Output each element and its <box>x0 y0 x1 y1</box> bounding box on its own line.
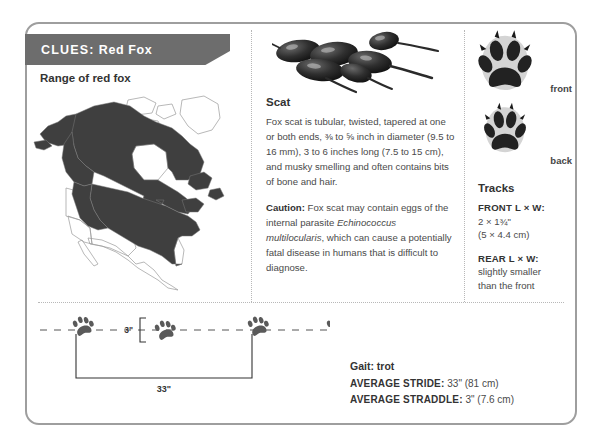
average-stride: AVERAGE STRIDE: 33" (81 cm) <box>350 378 565 389</box>
average-straddle-value: 3" (7.6 cm) <box>463 394 514 405</box>
back-paw-label: back <box>550 155 572 166</box>
stride-measure-label: 33" <box>157 384 171 394</box>
range-map <box>32 88 247 293</box>
tracks-heading: Tracks <box>478 182 570 194</box>
average-stride-value: 33" (81 cm) <box>445 378 499 389</box>
banner-title: CLUES: Red Fox <box>25 43 152 57</box>
scat-description: Fox scat is tubular, twisted, tapered at… <box>266 114 456 189</box>
trail-diagram-svg: 3" 33" <box>40 312 330 398</box>
track-front-measure: FRONT L × W: 2 × 1¾" (5 × 4.4 cm) <box>478 201 570 242</box>
track-rear-key: REAR L × W: <box>478 253 539 264</box>
straddle-measure-label: 3" <box>124 325 133 335</box>
track-front-metric: (5 × 4.4 cm) <box>478 229 529 240</box>
average-straddle-key: AVERAGE STRADDLE: <box>350 394 463 405</box>
paw-prints: front back <box>476 28 572 176</box>
caution-label: Caution: <box>266 202 305 213</box>
front-paw-icon <box>476 28 534 96</box>
trail-diagram: 3" 33" <box>40 312 330 398</box>
scat-illustration-svg <box>272 26 450 94</box>
map-title: Range of red fox <box>40 72 243 84</box>
scat-caution: Caution: Fox scat may contain eggs of th… <box>266 200 456 275</box>
back-paw-row: back <box>476 100 572 172</box>
back-paw-icon <box>481 100 529 158</box>
scat-heading: Scat <box>266 96 456 108</box>
north-america-map-svg <box>32 88 247 293</box>
average-stride-key: AVERAGE STRIDE: <box>350 378 445 389</box>
divider-vertical-left <box>251 30 252 302</box>
scat-illustration <box>272 26 450 94</box>
clues-banner: CLUES: Red Fox <box>25 34 230 65</box>
track-front-key: FRONT L × W: <box>478 202 545 213</box>
track-front-imperial: 2 × 1¾" <box>478 216 511 227</box>
track-rear-measure: REAR L × W: slightly smaller than the fr… <box>478 252 570 293</box>
tracks-section: Tracks FRONT L × W: 2 × 1¾" (5 × 4.4 cm)… <box>478 182 570 302</box>
front-paw-label: front <box>550 83 572 94</box>
gait-title: Gait: trot <box>350 360 565 372</box>
banner-subject: Red Fox <box>99 43 153 57</box>
gait-section: Gait: trot AVERAGE STRIDE: 33" (81 cm) A… <box>350 360 565 410</box>
divider-vertical-right <box>464 30 465 302</box>
track-rear-metric: than the front <box>478 280 535 291</box>
front-paw-row: front <box>476 28 572 100</box>
track-rear-imperial: slightly smaller <box>478 266 541 277</box>
scat-section: Scat Fox scat is tubular, twisted, taper… <box>266 96 456 286</box>
divider-horizontal <box>38 302 564 303</box>
average-straddle: AVERAGE STRADDLE: 3" (7.6 cm) <box>350 394 565 405</box>
banner-lead: CLUES: <box>41 43 95 57</box>
